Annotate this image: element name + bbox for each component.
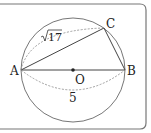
label-c: C bbox=[106, 17, 115, 31]
label-o: O bbox=[75, 73, 85, 87]
label-sqrt17-radicand: 17 bbox=[48, 31, 62, 44]
segment-ac bbox=[21, 28, 104, 70]
label-b: B bbox=[127, 64, 136, 78]
segment-cb bbox=[104, 28, 125, 70]
label-a: A bbox=[9, 64, 19, 78]
label-sqrt17: 17 bbox=[41, 30, 62, 44]
center-point bbox=[71, 68, 75, 72]
diagram-canvas: A B C O 17 5 bbox=[0, 0, 151, 133]
label-ab-length: 5 bbox=[69, 91, 77, 105]
measure-arc-ab bbox=[21, 70, 125, 90]
